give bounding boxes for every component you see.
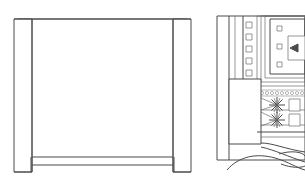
- base-block: [229, 79, 261, 144]
- cabinet-elevation-svg: [0, 0, 205, 193]
- side-block: [289, 114, 300, 126]
- fastener-square: [246, 58, 252, 64]
- fastener-square: [277, 26, 282, 31]
- fastener-square: [246, 22, 252, 28]
- right-leg: [173, 19, 191, 172]
- fastener-square: [246, 46, 252, 52]
- cabinet-elevation-drawing: [0, 0, 205, 193]
- machine-assembly-svg: [205, 0, 305, 193]
- fastener-square: [246, 70, 252, 76]
- body-panel: [18, 19, 187, 165]
- fastener-square: [277, 62, 282, 67]
- machine-assembly-drawing: [205, 0, 305, 193]
- left-leg: [14, 19, 32, 172]
- fastener-square: [246, 34, 252, 40]
- drawing-canvas: [0, 0, 305, 193]
- side-block: [289, 99, 300, 111]
- fastener-square: [277, 44, 282, 49]
